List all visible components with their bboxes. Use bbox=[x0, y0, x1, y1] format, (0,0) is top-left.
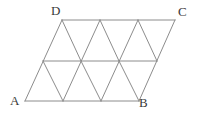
geometry-figure: D C A B bbox=[0, 0, 199, 115]
diagonal-down-4 bbox=[100, 20, 119, 61]
vertex-label-c: C bbox=[178, 5, 187, 18]
vertex-label-b: B bbox=[139, 96, 148, 109]
triangular-grid-svg bbox=[0, 0, 199, 115]
grid-lines-group bbox=[25, 20, 175, 101]
diagonal-down-2 bbox=[62, 20, 81, 61]
diagonal-down-1 bbox=[43, 61, 63, 101]
diagonal-down-6 bbox=[138, 20, 157, 61]
vertex-label-a: A bbox=[10, 94, 19, 107]
vertex-label-d: D bbox=[51, 4, 60, 17]
diagonal-down-3 bbox=[81, 61, 101, 101]
diagonal-down-5 bbox=[119, 61, 139, 101]
